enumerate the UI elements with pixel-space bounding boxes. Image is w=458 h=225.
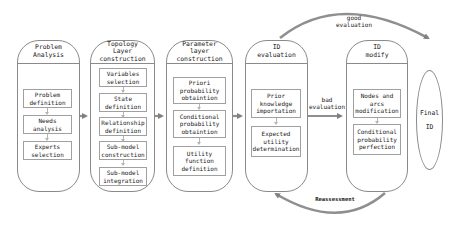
connector-arrows bbox=[0, 0, 458, 225]
bad-evaluation-label: bad evaluation bbox=[305, 96, 349, 111]
reassessment-label: Reassessment bbox=[305, 196, 365, 203]
good-evaluation-label: good evaluation bbox=[324, 14, 384, 29]
